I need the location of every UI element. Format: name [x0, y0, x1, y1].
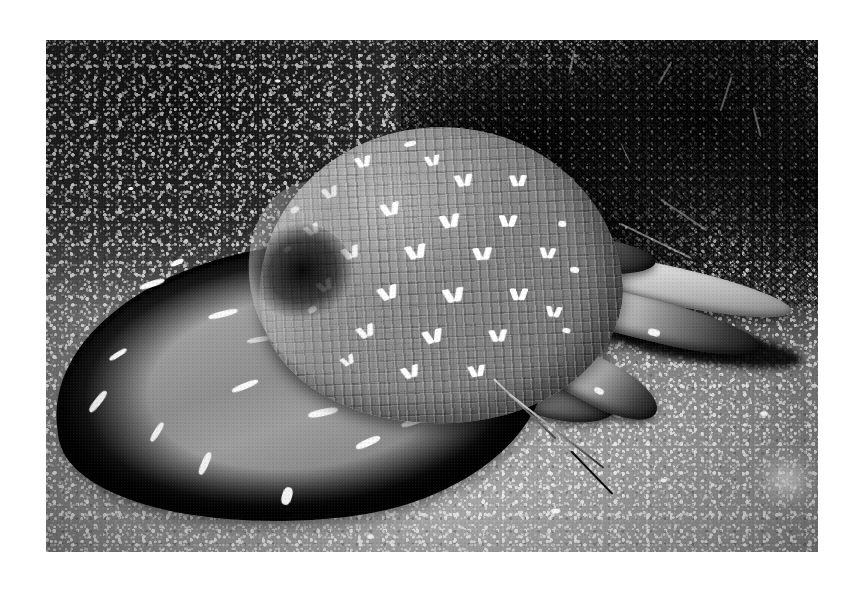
shell-chevron-mark: [512, 289, 527, 301]
shell-chevron-mark: [511, 175, 526, 187]
hermit-crab-photograph: [46, 40, 818, 552]
page-canvas: [0, 0, 863, 593]
lens-flare-blur: [741, 439, 818, 521]
shell-chevron-mark: [501, 215, 516, 227]
shell-chevron-mark: [541, 247, 555, 258]
shell-chevron-mark: [469, 364, 485, 377]
shell-chevron-mark: [490, 329, 506, 342]
shell-chevron-mark: [547, 306, 562, 318]
shell-chevron-mark: [474, 247, 491, 260]
shell-white-fleck: [558, 221, 566, 228]
